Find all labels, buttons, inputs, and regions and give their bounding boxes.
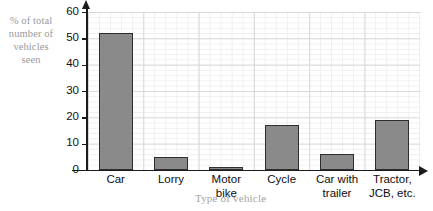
bar xyxy=(320,154,354,170)
x-axis-tick-label-line-2: JCB, etc. xyxy=(361,188,424,200)
y-axis-tick-mark xyxy=(82,117,88,118)
y-axis-tick-mark xyxy=(82,91,88,92)
x-axis-tick-label: Car xyxy=(84,174,147,186)
y-axis-tick-label: 50 xyxy=(66,31,79,43)
y-axis-tick-label: 30 xyxy=(66,84,79,96)
y-axis-tick-label: 10 xyxy=(66,136,79,148)
y-axis-line xyxy=(86,8,88,171)
y-axis-tick-mark xyxy=(82,38,88,39)
y-axis-tick-label: 20 xyxy=(66,110,79,122)
x-axis-tick-label-line-2: trailer xyxy=(305,188,368,200)
y-axis-tick-mark xyxy=(82,144,88,145)
x-axis-tick-label-line-1: Cycle xyxy=(250,174,313,186)
bar xyxy=(209,167,243,170)
x-axis-tick-label: Tractor,JCB, etc. xyxy=(361,174,424,199)
y-axis-tick-label: 60 xyxy=(66,5,79,17)
bar xyxy=(154,157,188,170)
y-axis-title: % of total number of vehicles seen xyxy=(0,14,62,66)
bar xyxy=(265,125,299,170)
y-axis-title-line-3: vehicles xyxy=(0,40,62,53)
x-axis-tick-label-line-1: Car with xyxy=(305,174,368,186)
plot-area xyxy=(88,12,420,170)
bar-chart: % of total number of vehicles seen 01020… xyxy=(0,0,433,211)
x-axis-tick-label: Cycle xyxy=(250,174,313,186)
y-axis-tick-mark xyxy=(82,12,88,13)
x-axis-title: Type of vehicle xyxy=(195,192,266,204)
bar xyxy=(99,33,133,170)
y-axis-arrow-icon xyxy=(82,0,90,9)
y-axis-tick-mark xyxy=(82,170,88,171)
x-axis-tick-label-line-1: Tractor, xyxy=(361,174,424,186)
y-axis-title-line-1: % of total xyxy=(0,14,62,27)
y-axis-tick-label: 0 xyxy=(73,163,79,175)
x-axis-tick-label-line-1: Car xyxy=(84,174,147,186)
y-axis-title-line-4: seen xyxy=(0,53,62,66)
y-axis-tick-mark xyxy=(82,65,88,66)
x-axis-tick-label: Lorry xyxy=(139,174,202,186)
bar xyxy=(375,120,409,170)
y-axis-title-line-2: number of xyxy=(0,27,62,40)
y-axis-tick-label: 40 xyxy=(66,57,79,69)
x-axis-tick-label: Car withtrailer xyxy=(305,174,368,199)
x-axis-tick-label-line-1: Lorry xyxy=(139,174,202,186)
x-axis-tick-label-line-1: Motor xyxy=(195,174,258,186)
